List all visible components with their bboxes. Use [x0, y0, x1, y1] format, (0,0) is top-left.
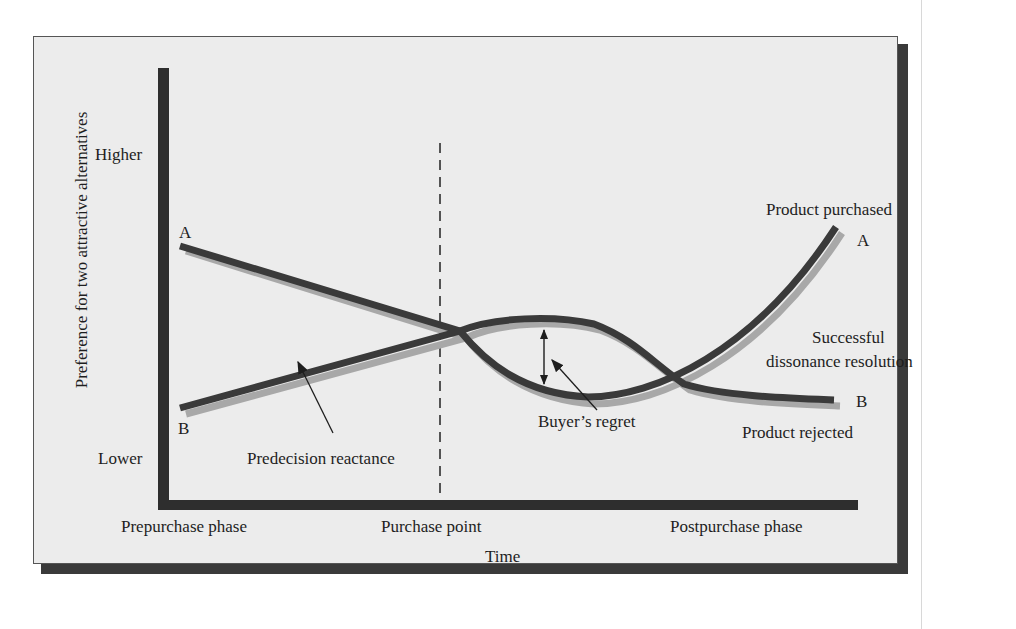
curve-b-end-label: B — [856, 393, 867, 410]
successful-label-line2: dissonance resolution — [766, 353, 913, 370]
y-axis — [158, 68, 169, 508]
x-axis — [158, 500, 858, 510]
x-tick-prepurchase: Prepurchase phase — [121, 518, 247, 535]
y-high-label: Higher — [95, 146, 142, 163]
x-axis-label: Time — [485, 548, 520, 565]
curve-b-start-label: B — [178, 420, 189, 437]
curve-a — [180, 227, 836, 397]
buyers-regret-label: Buyer’s regret — [538, 413, 635, 430]
curve-a-end-label: A — [857, 232, 869, 249]
y-axis-label: Preference for two attractive alternativ… — [72, 112, 92, 389]
product-rejected-label: Product rejected — [742, 424, 853, 441]
product-purchased-label: Product purchased — [766, 201, 892, 218]
curve-b — [180, 319, 834, 408]
predecision-reactance-label: Predecision reactance — [247, 450, 395, 467]
x-tick-purchase-point: Purchase point — [381, 518, 482, 535]
axes — [158, 68, 858, 510]
successful-label-line1: Successful — [812, 329, 885, 346]
buyers-regret-double-arrow — [540, 329, 548, 385]
x-tick-postpurchase: Postpurchase phase — [670, 518, 803, 535]
curve-a-start-label: A — [179, 224, 191, 241]
curve-shadows — [186, 233, 842, 414]
y-low-label: Lower — [98, 450, 142, 467]
